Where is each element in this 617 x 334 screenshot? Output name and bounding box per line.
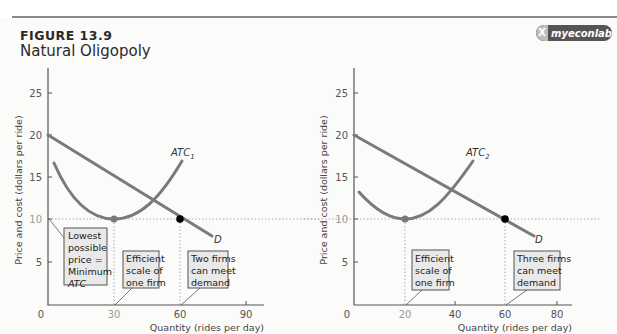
- right-x-tick-label: 40: [449, 309, 462, 320]
- right-y-tick-label: 25: [335, 88, 348, 99]
- left-x-tick-label: 0: [38, 309, 44, 320]
- left-y-tick-label: 10: [29, 214, 42, 225]
- left-two-firms-text: Two firms can meet demand: [190, 253, 239, 288]
- left-x-tick-label: 30: [108, 309, 121, 320]
- right-y-tick-label: 20: [335, 130, 348, 141]
- left-y-tick-label: 25: [29, 88, 42, 99]
- right-x-axis-label: Quantity (rides per day): [458, 322, 572, 333]
- right-demand-label: D: [535, 234, 543, 245]
- left-x-tick-label: 90: [240, 309, 253, 320]
- right-x-tick-label: 80: [551, 309, 564, 320]
- left-y-axis-label: Price and cost (dollars per ride): [13, 115, 24, 264]
- left-y-tick-label: 5: [36, 257, 42, 268]
- charts: Price and cost (dollars per ride) 25 20 …: [0, 0, 617, 334]
- right-min-atc-point: [402, 216, 409, 223]
- right-demand-point: [501, 215, 509, 223]
- right-x-tick-label: 20: [399, 309, 412, 320]
- left-demand-point: [176, 215, 184, 223]
- left-lowest-price-leader: [49, 219, 65, 239]
- right-y-tick-label: 15: [335, 172, 348, 183]
- right-y-tick-label: 10: [335, 214, 348, 225]
- left-y-tick-label: 20: [29, 130, 42, 141]
- left-efficient-scale-text: Efficient scale of one firm: [126, 253, 168, 288]
- left-x-tick-label: 60: [174, 309, 187, 320]
- right-y-axis-label: Price and cost (dollars per ride): [318, 115, 329, 264]
- left-demand-label: D: [214, 234, 222, 245]
- right-x-tick-label: 60: [499, 309, 512, 320]
- right-efficient-scale-text: Efficient scale of one firm: [415, 253, 457, 288]
- right-atc-label: ATC2: [465, 147, 490, 161]
- left-atc-label: ATC1: [170, 147, 195, 161]
- left-min-atc-point: [111, 216, 118, 223]
- left-atc-curve: [54, 161, 182, 219]
- right-three-firms-text: Three firms can meet demand: [516, 253, 574, 288]
- right-efficient-scale-leader: [406, 290, 422, 305]
- right-x-tick-label: 0: [344, 309, 350, 320]
- right-y-tick-label: 5: [342, 257, 348, 268]
- left-efficient-scale-leader: [115, 288, 132, 305]
- left-two-firms-leader: [181, 288, 200, 305]
- right-three-firms-leader: [506, 290, 527, 305]
- right-chart: Price and cost (dollars per ride) 25 20 …: [304, 68, 600, 333]
- left-x-axis-label: Quantity (rides per day): [150, 322, 264, 333]
- left-y-tick-label: 15: [29, 172, 42, 183]
- left-chart: Price and cost (dollars per ride) 25 20 …: [13, 68, 320, 333]
